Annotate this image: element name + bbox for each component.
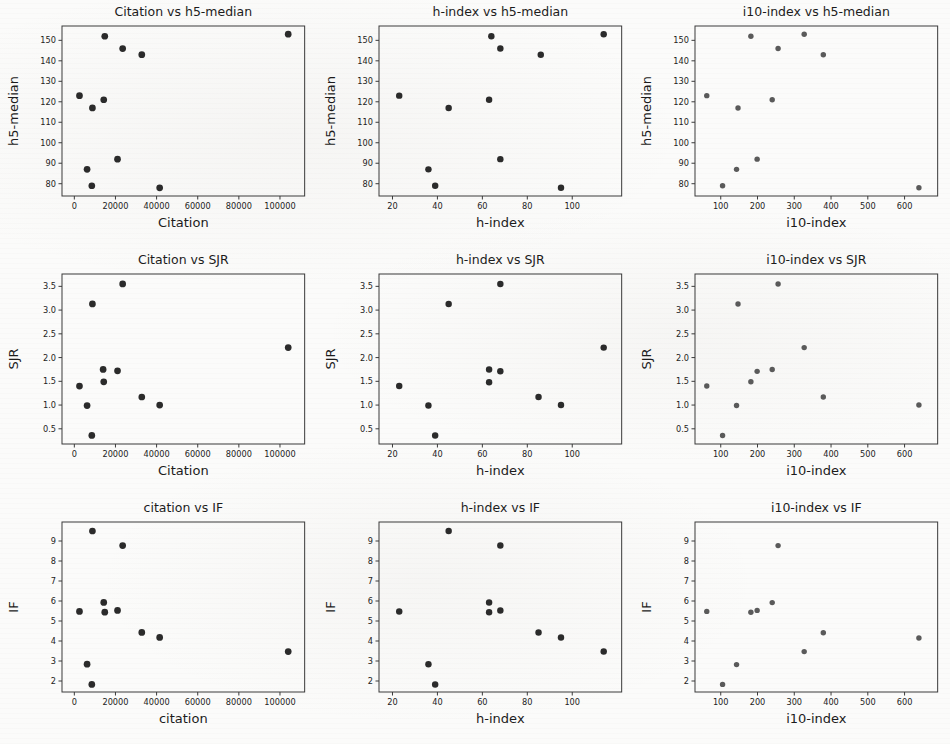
y-tick-label: 100 [40, 138, 56, 148]
data-point [89, 301, 96, 308]
y-tick-label: 8 [684, 556, 689, 566]
y-tick-label: 150 [674, 35, 690, 45]
chart-title: i10-index vs SJR [767, 252, 867, 267]
y-tick-label: 3 [51, 656, 56, 666]
data-point [720, 183, 725, 188]
data-point [770, 97, 775, 102]
x-tick-label: 80000 [226, 697, 252, 707]
x-tick-label: 40 [432, 201, 442, 211]
plot-frame [62, 274, 305, 444]
y-axis-label: SJR [639, 348, 654, 369]
x-tick-label: 80 [522, 449, 532, 459]
y-tick-label: 0.5 [676, 424, 689, 434]
data-point [396, 92, 402, 98]
y-tick-label: 1.5 [360, 376, 373, 386]
x-tick-label: 40000 [144, 201, 170, 211]
x-tick-label: 60 [477, 449, 487, 459]
y-tick-label: 1.5 [676, 376, 689, 386]
y-tick-label: 4 [51, 636, 56, 646]
data-point [138, 51, 145, 58]
y-tick-label: 150 [40, 35, 56, 45]
data-point [488, 33, 494, 39]
data-point [486, 599, 492, 605]
data-point [755, 369, 760, 374]
x-tick-label: 300 [787, 697, 803, 707]
data-point [119, 542, 126, 549]
y-tick-label: 3 [684, 656, 689, 666]
data-point [734, 167, 739, 172]
y-tick-label: 6 [684, 596, 689, 606]
x-tick-label: 600 [897, 201, 913, 211]
data-point [84, 166, 91, 173]
y-tick-label: 9 [367, 536, 372, 546]
y-tick-label: 2.5 [360, 329, 373, 339]
y-tick-label: 3 [367, 656, 372, 666]
y-tick-label: 4 [367, 636, 372, 646]
y-tick-label: 150 [357, 35, 373, 45]
y-tick-label: 100 [674, 138, 690, 148]
data-point [432, 432, 438, 438]
data-point-series [396, 528, 607, 688]
y-tick-label: 80 [679, 179, 689, 189]
data-point [138, 394, 145, 401]
data-point [285, 648, 292, 655]
y-tick-label: 4 [684, 636, 689, 646]
chart-panel: i10-index vs SJR1002003004005006000.51.0… [633, 248, 950, 496]
data-point [88, 432, 95, 439]
data-point [396, 383, 402, 389]
data-point [285, 31, 292, 38]
y-axis-label: SJR [323, 348, 338, 369]
data-point-series [704, 281, 922, 438]
x-tick-label: 60 [477, 697, 487, 707]
data-point [736, 105, 741, 110]
data-point-series [396, 31, 607, 191]
data-point [802, 31, 807, 36]
x-tick-label: 300 [787, 449, 803, 459]
x-tick-label: 200 [750, 449, 766, 459]
data-point [535, 629, 541, 635]
data-point [497, 607, 503, 613]
chart-title: Citation vs SJR [138, 252, 229, 267]
y-tick-label: 120 [674, 97, 690, 107]
x-tick-label: 100 [713, 201, 729, 211]
data-point [114, 368, 121, 375]
data-point [486, 366, 492, 372]
data-point [156, 402, 163, 409]
x-tick-label: 20000 [102, 697, 128, 707]
x-tick-label: 80 [522, 201, 532, 211]
y-tick-label: 3.0 [360, 305, 373, 315]
data-point [76, 608, 83, 615]
data-point [755, 608, 760, 613]
x-axis-label: h-index [476, 711, 525, 726]
x-tick-label: 60 [477, 201, 487, 211]
y-axis-label: SJR [6, 348, 21, 369]
data-point [770, 600, 775, 605]
data-point [114, 156, 121, 163]
data-point [425, 166, 431, 172]
y-tick-label: 90 [679, 158, 689, 168]
data-point [917, 635, 922, 640]
plot-frame [62, 522, 305, 692]
chart-panel: Citation vs SJR0200004000060000800001000… [0, 248, 317, 496]
y-tick-label: 2 [684, 676, 689, 686]
y-tick-label: 130 [40, 76, 56, 86]
data-point [101, 33, 108, 40]
data-point [89, 105, 96, 112]
x-tick-label: 80000 [226, 449, 252, 459]
x-tick-label: 500 [860, 449, 876, 459]
data-point [557, 634, 563, 640]
chart-panel: h-index vs IF2040608010023456789h-indexI… [317, 496, 634, 744]
data-point [445, 301, 451, 307]
data-point [156, 634, 163, 641]
data-point [486, 609, 492, 615]
chart-title: Citation vs h5-median [115, 4, 253, 19]
x-axis-label: i10-index [786, 711, 847, 726]
x-tick-label: 80000 [226, 201, 252, 211]
data-point [432, 183, 438, 189]
x-tick-label: 60000 [185, 201, 211, 211]
y-tick-label: 2.0 [43, 353, 56, 363]
x-tick-label: 20 [387, 201, 397, 211]
data-point [100, 599, 107, 606]
plot-frame [62, 26, 305, 196]
y-axis-label: IF [6, 601, 21, 612]
